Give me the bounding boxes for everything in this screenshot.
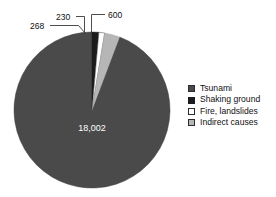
callout-label-fire-landslides: 230 [56,12,70,22]
pie-chart-figure: 268 230 600 18,002 Tsunami Shaking groun… [0,0,276,197]
legend-item-tsunami[interactable]: Tsunami [188,83,276,94]
legend-label-tsunami: Tsunami [200,83,232,94]
legend-swatch-tsunami [188,85,195,92]
leader-line-600 [92,15,105,34]
legend-item-fire-landslides[interactable]: Fire, landslides [188,106,276,117]
legend-swatch-shaking-ground [188,97,195,104]
legend-swatch-indirect-causes [188,119,195,126]
legend-item-indirect-causes[interactable]: Indirect causes [188,117,276,128]
legend-item-shaking-ground[interactable]: Shaking ground [188,94,276,105]
legend-label-indirect-causes: Indirect causes [200,117,258,128]
callout-label-indirect-causes: 600 [108,10,122,20]
legend-swatch-fire-landslides [188,108,195,115]
callout-label-shaking-ground: 268 [30,21,44,31]
chart-legend: Tsunami Shaking ground Fire, landslides … [188,83,276,129]
legend-label-shaking-ground: Shaking ground [200,94,260,105]
leader-line-268 [51,26,86,34]
legend-label-fire-landslides: Fire, landslides [200,106,258,117]
pie-slices [14,32,170,188]
pie-center-value-label: 18,002 [78,123,106,133]
